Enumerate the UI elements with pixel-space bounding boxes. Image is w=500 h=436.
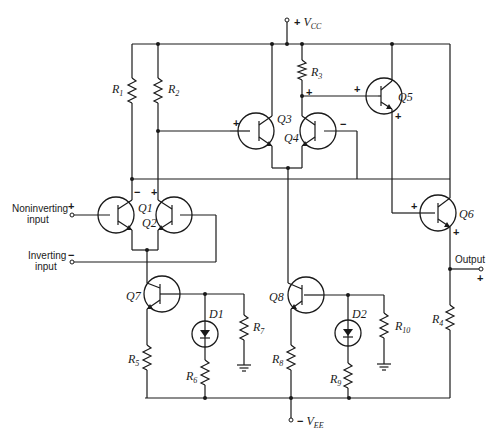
noninverting-input: Noninverting input + [12, 200, 74, 225]
q6-base-plus: + [411, 200, 417, 212]
r10-label: R10 [394, 319, 410, 335]
d1-label: D1 [208, 307, 224, 321]
vee-terminal[interactable] [289, 418, 293, 422]
output-terminal[interactable] [479, 267, 483, 271]
q6-emitter-plus: + [453, 226, 459, 238]
transistor-q3 [230, 44, 274, 168]
q3-label: Q3 [277, 112, 292, 126]
transistor-q1 [70, 197, 134, 250]
vcc-terminal[interactable] [285, 18, 289, 22]
r4-label: R4 [431, 312, 443, 328]
transistor-q4 [300, 113, 357, 179]
q3-base-plus: + [233, 117, 239, 129]
resistor-r10 [377, 295, 391, 370]
transistor-q7 [144, 276, 180, 345]
q6-label: Q6 [459, 207, 474, 221]
q4-label: Q4 [284, 131, 299, 145]
r1-label: R1 [111, 82, 123, 98]
q5-base-plus: + [354, 83, 360, 95]
q7-label: Q7 [126, 289, 142, 303]
resistor-r3 [298, 44, 306, 116]
r7-label: R7 [252, 320, 265, 336]
r2-label: R2 [167, 82, 179, 98]
transistor-q2 [156, 197, 216, 262]
ground-icon [237, 365, 251, 371]
transistor-q5 [366, 44, 414, 213]
transistor-q6 [414, 44, 456, 305]
q1-collector-minus: − [134, 186, 140, 198]
q8-label: Q8 [269, 290, 284, 304]
q5-emitter-plus: + [395, 110, 401, 122]
r5-label: R5 [127, 352, 139, 368]
op-amp-schematic: +VCC −VEE R1 R2 Q1 − [0, 0, 500, 436]
svg-text:Inverting: Inverting [28, 250, 66, 261]
vcc-rail [132, 18, 450, 46]
q1-label: Q1 [138, 201, 153, 215]
ground-icon [377, 364, 391, 370]
resistor-r4 [446, 305, 454, 398]
resistor-r1 [128, 44, 136, 200]
q4-base-minus: − [340, 118, 346, 130]
q5-label: Q5 [398, 90, 413, 104]
r9-label: R9 [329, 372, 341, 388]
vee-label: −VEE [297, 414, 324, 430]
output-plus: + [477, 272, 483, 284]
resistor-r8 [287, 345, 295, 398]
output-label: Output [455, 254, 485, 265]
d2-label: D2 [351, 307, 367, 321]
svg-text:Noninverting: Noninverting [12, 203, 68, 214]
output-node: Output + [448, 254, 485, 284]
svg-text:−: − [68, 249, 74, 261]
r6-label: R6 [185, 369, 197, 385]
resistor-r5 [143, 345, 151, 398]
q2-label: Q2 [142, 216, 157, 230]
r3-label: R3 [310, 65, 322, 81]
svg-text:input: input [27, 214, 49, 225]
r8-label: R8 [271, 352, 283, 368]
svg-text:input: input [35, 261, 57, 272]
noninverting-terminal[interactable] [70, 213, 74, 217]
resistor-r2 [154, 44, 162, 200]
resistor-r7 [237, 294, 251, 371]
inverting-input: Inverting input − [28, 249, 216, 272]
vcc-label: +VCC [294, 15, 322, 31]
svg-text:+: + [68, 200, 74, 212]
transistor-q8 [288, 277, 324, 345]
q2-collector-plus: + [151, 186, 157, 198]
